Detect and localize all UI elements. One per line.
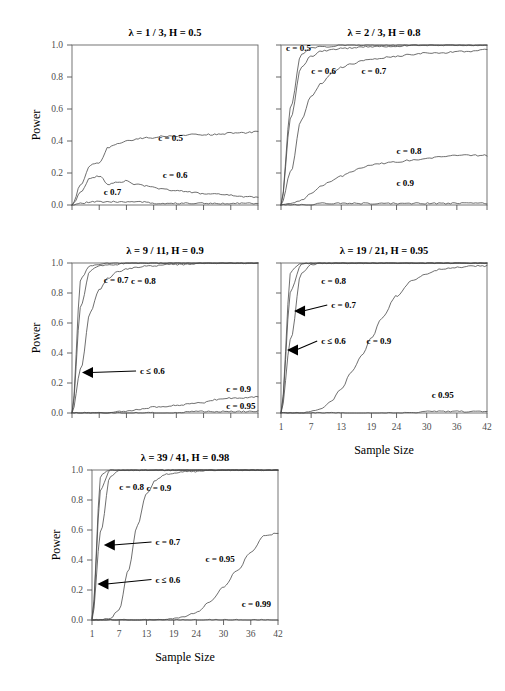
series-label: c = 0.7 (331, 300, 356, 310)
x-tick-label: 1 (90, 629, 95, 639)
y-tick-label: 0.6 (51, 318, 63, 328)
y-tick-label: 0.8 (51, 72, 63, 82)
series-label: c 0.7 (104, 187, 122, 197)
y-tick-label: 0.2 (51, 168, 63, 178)
series-label: c ≤ 0.6 (140, 366, 165, 376)
x-tick-label: 24 (392, 422, 402, 432)
x-tick-label: 13 (337, 422, 347, 432)
x-tick-label: 30 (422, 422, 432, 432)
x-tick-label: 7 (117, 629, 122, 639)
y-tick-label: 0.0 (71, 615, 83, 625)
x-tick-label: 24 (192, 629, 202, 639)
series-label: c 0.95 (432, 390, 454, 400)
y-tick-label: 0.4 (51, 136, 63, 146)
y-axis-title: Power (29, 323, 43, 354)
series-label: c = 0.8 (397, 146, 422, 156)
x-tick-label: 1 (279, 422, 284, 432)
series-label: c = 0.5 (158, 133, 183, 143)
series-line (72, 176, 258, 205)
annotation-leader-line (106, 580, 151, 585)
annotation-leader-line (303, 305, 327, 311)
series-label: c = 0.7 (361, 66, 386, 76)
series-line (92, 619, 278, 620)
y-tick-label: 0.4 (51, 348, 63, 358)
x-tick-label: 30 (219, 629, 229, 639)
panel-title: λ = 39 / 41, H = 0.98 (141, 452, 230, 463)
x-tick-label: 36 (452, 422, 462, 432)
series-line (281, 155, 487, 205)
panel-title: λ = 2 / 3, H = 0.8 (348, 27, 421, 38)
series-label: c = 0.8 (119, 482, 144, 492)
series-label: c = 0.99 (242, 599, 272, 609)
series-label: c = 0.7 (104, 275, 129, 285)
chart-panel-2: λ = 2 / 3, H = 0.8c = 0.5c = 0.6c = 0.7c… (235, 23, 497, 257)
panel-title: λ = 19 / 21, H = 0.95 (340, 245, 429, 256)
series-label: c = 0.5 (286, 43, 311, 53)
chart-panel-1: λ = 1 / 3, H = 0.50.00.20.40.60.81.0Powe… (26, 23, 268, 257)
chart-panel-4: λ = 19 / 21, H = 0.9517131924303642Sampl… (235, 241, 497, 465)
y-tick-label: 0.8 (71, 495, 83, 505)
series-label: c = 0.8 (131, 276, 156, 286)
chart-panel-5: λ = 39 / 41, H = 0.980.00.20.40.60.81.01… (46, 448, 288, 672)
y-tick-label: 0.2 (71, 585, 83, 595)
annotation-arrowhead (82, 367, 93, 378)
annotation-leader-line (296, 341, 317, 350)
series-label: c = 0.95 (205, 554, 235, 564)
y-tick-label: 1.0 (71, 465, 83, 475)
y-axis-title: Power (49, 530, 63, 561)
y-tick-label: 0.2 (51, 378, 63, 388)
x-tick-label: 19 (367, 422, 377, 432)
y-tick-label: 0.0 (51, 408, 63, 418)
series-label: c = 0.7 (156, 537, 181, 547)
y-tick-label: 1.0 (51, 258, 63, 268)
y-tick-label: 0.6 (51, 104, 63, 114)
series-label: c ≤ 0.6 (321, 336, 346, 346)
series-label: c = 0.6 (311, 66, 336, 76)
series-line (72, 201, 258, 205)
series-label: c 0.9 (397, 178, 415, 188)
annotation-arrowhead (97, 579, 108, 590)
annotation-arrowhead (287, 345, 298, 356)
annotation-leader-line (91, 371, 136, 373)
x-tick-label: 13 (142, 629, 152, 639)
series-label: c = 0.8 (321, 276, 346, 286)
x-tick-label: 42 (273, 629, 283, 639)
x-tick-label: 36 (246, 629, 256, 639)
y-tick-label: 0.6 (71, 525, 83, 535)
x-axis-title: Sample Size (354, 443, 414, 457)
series-label: c = 0.9 (146, 483, 171, 493)
plot-frame (72, 45, 258, 205)
y-tick-label: 1.0 (51, 40, 63, 50)
x-axis-title: Sample Size (155, 650, 215, 664)
panel-title: λ = 9 / 11, H = 0.9 (126, 245, 204, 256)
series-label: c = 0.9 (366, 336, 391, 346)
annotation-leader-line (113, 542, 152, 545)
figure-panel-grid: λ = 1 / 3, H = 0.50.00.20.40.60.81.0Powe… (0, 0, 505, 691)
y-axis-title: Power (29, 110, 43, 141)
series-label: c = 0.6 (163, 170, 188, 180)
y-tick-label: 0.0 (51, 200, 63, 210)
x-tick-label: 7 (309, 422, 314, 432)
series-label: c ≤ 0.6 (156, 575, 181, 585)
chart-panel-3: λ = 9 / 11, H = 0.90.00.20.40.60.81.0Pow… (26, 241, 268, 465)
x-tick-label: 42 (482, 422, 492, 432)
y-tick-label: 0.4 (71, 555, 83, 565)
annotation-arrowhead (104, 540, 115, 551)
panel-title: λ = 1 / 3, H = 0.5 (129, 27, 202, 38)
x-tick-label: 19 (169, 629, 179, 639)
y-tick-label: 0.8 (51, 288, 63, 298)
